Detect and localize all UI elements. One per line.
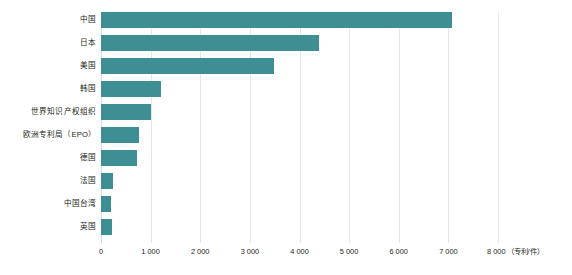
category-label: 法国 (0, 173, 96, 189)
bar-uk (101, 219, 112, 235)
x-tick-label: 0 (99, 246, 103, 258)
gridline (498, 12, 499, 243)
bar-row (101, 127, 139, 143)
category-axis: 中国 日本 美国 韩国 世界知识产权组织 欧洲专利局（EPO） 德国 法国 中国… (0, 12, 96, 243)
category-label: 中国 (0, 12, 96, 28)
category-label: 美国 (0, 58, 96, 74)
bar-row (101, 219, 112, 235)
bar-epo (101, 127, 139, 143)
plot-area (101, 12, 498, 243)
x-tick-label: 7 000 (439, 246, 458, 258)
category-label: 欧洲专利局（EPO） (0, 127, 96, 143)
x-tick-label: 1 000 (141, 246, 160, 258)
x-tick-label: 5 000 (340, 246, 359, 258)
category-label: 日本 (0, 35, 96, 51)
bar-row (101, 173, 113, 189)
bar-korea (101, 81, 161, 97)
bar-row (101, 104, 151, 120)
category-label: 中国台湾 (0, 196, 96, 212)
bars (101, 12, 498, 243)
category-label: 韩国 (0, 81, 96, 97)
bar-france (101, 173, 113, 189)
category-label: 德国 (0, 150, 96, 166)
bar-row (101, 81, 161, 97)
bar-taiwan (101, 196, 111, 212)
category-label: 世界知识产权组织 (0, 104, 96, 120)
value-axis: 0 1 000 2 000 3 000 4 000 5 000 6 000 7 … (101, 246, 498, 262)
bar-china (101, 12, 452, 28)
bar-wipo (101, 104, 151, 120)
bar-row (101, 58, 274, 74)
bar-chart: 中国 日本 美国 韩国 世界知识产权组织 欧洲专利局（EPO） 德国 法国 中国… (0, 0, 572, 275)
x-tick-label: 2 000 (191, 246, 210, 258)
bar-row (101, 35, 319, 51)
bar-japan (101, 35, 319, 51)
bar-germany (101, 150, 137, 166)
x-tick-label: 3 000 (241, 246, 260, 258)
bar-row (101, 12, 452, 28)
x-tick-label: 6 000 (389, 246, 408, 258)
bar-usa (101, 58, 274, 74)
x-tick-label-last: 8 000（专利/件） (487, 246, 544, 258)
category-label: 英国 (0, 219, 96, 235)
bar-row (101, 196, 111, 212)
x-tick-value: 8 000 (487, 247, 506, 256)
x-tick-label: 4 000 (290, 246, 309, 258)
bar-row (101, 150, 137, 166)
axis-unit-label: （专利/件） (507, 247, 544, 256)
